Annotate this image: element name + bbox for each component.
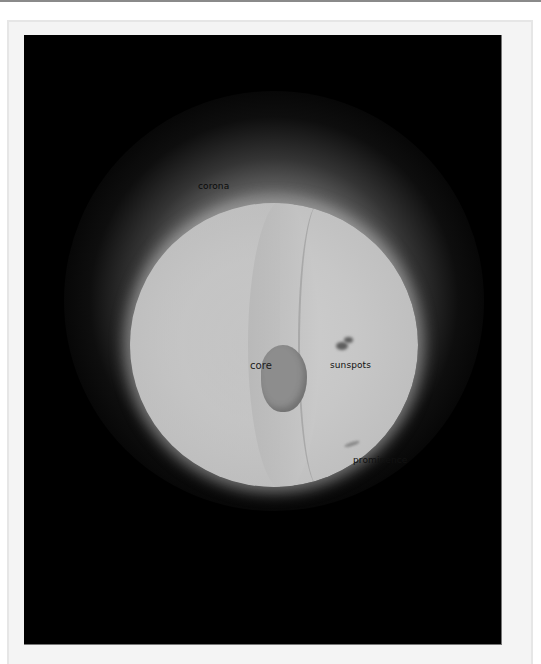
- label-prominence: prominence: [353, 455, 407, 465]
- sunspot: [336, 342, 348, 350]
- top-divider: [0, 0, 541, 2]
- label-corona: corona: [198, 181, 229, 191]
- prominence-mark: [344, 440, 360, 449]
- convective-zone-edge: [298, 203, 340, 487]
- sunspot: [344, 337, 353, 343]
- sun-disk: [130, 203, 418, 487]
- sun-illustration: corona core sunspots prominence: [24, 35, 502, 645]
- label-core: core: [250, 360, 272, 371]
- sun-core: [261, 345, 307, 412]
- label-sunspots: sunspots: [330, 360, 371, 370]
